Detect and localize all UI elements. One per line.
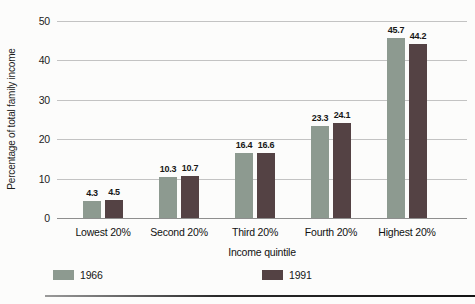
- x-tick-label-fourth-20: Fourth 20%: [289, 226, 373, 238]
- bar-value-label-1991-highest-20: 44.2: [403, 31, 433, 41]
- bar-1991-fourth-20: [333, 123, 351, 218]
- x-tick-label-second-20: Second 20%: [137, 226, 221, 238]
- legend-item-1966: 1966: [53, 269, 103, 281]
- bar-1966-lowest-20: [83, 201, 101, 218]
- x-tick-label-lowest-20: Lowest 20%: [61, 226, 145, 238]
- gridline-40: [57, 60, 467, 61]
- legend-label-1991: 1991: [289, 269, 312, 281]
- bar-1966-fourth-20: [311, 126, 329, 218]
- legend-swatch-1991: [262, 270, 283, 280]
- y-tick-label-0: 0: [26, 212, 50, 224]
- bar-1991-second-20: [181, 176, 199, 218]
- x-tick-label-third-20: Third 20%: [213, 226, 297, 238]
- bar-value-label-1991-second-20: 10.7: [175, 163, 205, 173]
- y-tick-label-20: 20: [26, 133, 50, 145]
- legend-label-1966: 1966: [80, 269, 103, 281]
- bar-1991-third-20: [257, 153, 275, 218]
- income-quintile-bar-chart: Percentage of total family income 4.34.5…: [0, 0, 475, 304]
- bottom-rule-divider: [45, 295, 475, 297]
- x-tick-label-highest-20: Highest 20%: [365, 226, 449, 238]
- plot-area: 4.34.510.310.716.416.623.324.145.744.2: [57, 21, 467, 219]
- bar-value-label-1991-third-20: 16.6: [251, 140, 281, 150]
- gridline-30: [57, 100, 467, 101]
- y-tick-label-10: 10: [26, 173, 50, 185]
- bar-value-label-1991-lowest-20: 4.5: [99, 187, 129, 197]
- y-tick-label-40: 40: [26, 54, 50, 66]
- bar-1991-highest-20: [409, 44, 427, 218]
- bar-1991-lowest-20: [105, 200, 123, 218]
- x-axis-label: Income quintile: [57, 246, 467, 258]
- legend-item-1991: 1991: [262, 269, 312, 281]
- y-tick-label-50: 50: [26, 15, 50, 27]
- bar-value-label-1991-fourth-20: 24.1: [327, 110, 357, 120]
- bar-1966-highest-20: [387, 38, 405, 218]
- bar-1966-third-20: [235, 153, 253, 218]
- y-axis-label: Percentage of total family income: [6, 48, 17, 189]
- bar-1966-second-20: [159, 177, 177, 218]
- legend-swatch-1966: [53, 270, 74, 280]
- gridline-50: [57, 21, 467, 22]
- y-tick-label-30: 30: [26, 94, 50, 106]
